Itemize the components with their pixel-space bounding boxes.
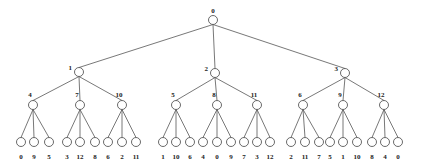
node-label: 7 bbox=[317, 153, 321, 161]
node-label: 4 bbox=[28, 91, 32, 99]
tree-edge bbox=[79, 25, 213, 68]
node-label: 10 bbox=[173, 153, 181, 161]
tree-edge bbox=[80, 110, 95, 138]
tree-edge bbox=[291, 110, 303, 138]
node-label: 0 bbox=[211, 7, 215, 15]
level2-node bbox=[76, 101, 85, 110]
node-label: 12 bbox=[77, 153, 85, 161]
leaf-node bbox=[253, 138, 262, 147]
leaf-node bbox=[159, 138, 168, 147]
node-label: 5 bbox=[47, 153, 51, 161]
level2-node bbox=[29, 101, 38, 110]
node-label: 3 bbox=[255, 153, 259, 161]
node-label: 11 bbox=[251, 91, 258, 99]
leaf-node bbox=[45, 138, 54, 147]
level1-node bbox=[75, 68, 84, 77]
node-label: 0 bbox=[396, 153, 400, 161]
node-label: 7 bbox=[75, 91, 79, 99]
leaf-node bbox=[76, 138, 85, 147]
node-label: 6 bbox=[298, 91, 302, 99]
leaf-node bbox=[368, 138, 377, 147]
leaf-node bbox=[186, 138, 195, 147]
leaf-node bbox=[315, 138, 324, 147]
level2-node bbox=[118, 101, 127, 110]
node-label: 6 bbox=[188, 153, 192, 161]
tree-edge bbox=[79, 77, 80, 101]
level2-node bbox=[299, 101, 308, 110]
root-node bbox=[209, 16, 218, 25]
leaf-node bbox=[266, 138, 275, 147]
node-label: 5 bbox=[171, 91, 175, 99]
tree-edge bbox=[33, 110, 49, 138]
node-label: 8 bbox=[370, 153, 374, 161]
node-label: 2 bbox=[289, 153, 293, 161]
tree-edge bbox=[108, 110, 122, 138]
tree-edge bbox=[21, 110, 33, 138]
node-label: 0 bbox=[215, 153, 219, 161]
tree-edge bbox=[67, 110, 80, 138]
leaf-node bbox=[172, 138, 181, 147]
tree-edge bbox=[203, 110, 217, 138]
tree-edge bbox=[176, 78, 215, 101]
tree-edge bbox=[303, 110, 319, 138]
tree-edge bbox=[384, 110, 398, 138]
leaf-node bbox=[63, 138, 72, 147]
tree-edge bbox=[303, 110, 305, 138]
node-label: 1 bbox=[161, 153, 165, 161]
leaf-node bbox=[353, 138, 362, 147]
tree-edge bbox=[176, 110, 190, 138]
level1-node bbox=[341, 69, 350, 78]
node-label: 12 bbox=[267, 153, 275, 161]
node-label: 3 bbox=[335, 65, 339, 73]
node-label: 1 bbox=[341, 153, 345, 161]
node-label: 6 bbox=[106, 153, 110, 161]
node-label: 5 bbox=[328, 153, 332, 161]
node-label: 0 bbox=[19, 153, 23, 161]
tree-edge bbox=[33, 77, 79, 101]
leaf-node bbox=[381, 138, 390, 147]
node-label: 9 bbox=[338, 91, 342, 99]
node-label: 2 bbox=[205, 65, 209, 73]
tree-edge bbox=[384, 110, 385, 138]
leaf-node bbox=[394, 138, 403, 147]
node-label: 7 bbox=[242, 153, 246, 161]
node-label: 12 bbox=[378, 91, 386, 99]
node-label: 11 bbox=[302, 153, 309, 161]
level2-node bbox=[213, 101, 222, 110]
leaf-node bbox=[104, 138, 113, 147]
leaf-node bbox=[17, 138, 26, 147]
node-label: 9 bbox=[229, 153, 233, 161]
node-label: 11 bbox=[133, 153, 140, 161]
level2-node bbox=[172, 101, 181, 110]
tree-edge bbox=[257, 110, 270, 138]
leaf-node bbox=[227, 138, 236, 147]
node-label: 3 bbox=[65, 153, 69, 161]
tree-edge bbox=[163, 110, 176, 138]
leaf-node bbox=[30, 138, 39, 147]
leaf-node bbox=[287, 138, 296, 147]
tree-edge bbox=[213, 25, 215, 69]
node-label: 10 bbox=[354, 153, 362, 161]
leaf-node bbox=[91, 138, 100, 147]
node-label: 4 bbox=[383, 153, 387, 161]
tree-edge bbox=[372, 110, 384, 138]
tree-edge bbox=[33, 110, 34, 138]
node-label: 2 bbox=[120, 153, 124, 161]
level2-node bbox=[253, 101, 262, 110]
tree-edge bbox=[244, 110, 257, 138]
leaf-node bbox=[326, 138, 335, 147]
tree-edges bbox=[21, 25, 398, 138]
node-label: 4 bbox=[201, 153, 205, 161]
tree-edge bbox=[217, 110, 231, 138]
leaf-node bbox=[132, 138, 141, 147]
level2-node bbox=[380, 101, 389, 110]
leaf-node bbox=[213, 138, 222, 147]
level2-node bbox=[339, 101, 348, 110]
node-label: 9 bbox=[32, 153, 36, 161]
node-label: 8 bbox=[93, 153, 97, 161]
tree-edge bbox=[343, 110, 357, 138]
tree-edge bbox=[343, 78, 345, 101]
node-label: 1 bbox=[69, 64, 73, 72]
node-label: 8 bbox=[212, 91, 216, 99]
tree-edge bbox=[330, 110, 343, 138]
